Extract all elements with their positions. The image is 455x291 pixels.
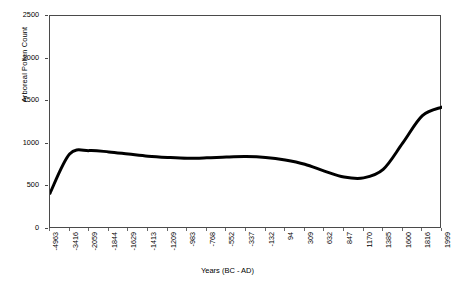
x-tick-label: -2059 xyxy=(91,232,98,291)
x-tick-label: 1816 xyxy=(424,232,431,291)
x-tick-label: -4963 xyxy=(52,232,59,291)
x-tick-label: 847 xyxy=(346,232,353,291)
x-tick-label: 1600 xyxy=(405,232,412,291)
y-tick-mark xyxy=(45,58,48,59)
x-axis-title: Years (BC - AD) xyxy=(0,266,455,275)
x-tick-label: -1844 xyxy=(111,232,118,291)
y-tick-mark xyxy=(45,185,48,186)
x-tick-mark xyxy=(225,228,226,231)
x-tick-label: 94 xyxy=(287,232,294,291)
x-tick-mark xyxy=(88,228,89,231)
x-tick-label: 1170 xyxy=(366,232,373,291)
chart-container: Arboreal Pollen Count 050010001500200025… xyxy=(0,0,455,291)
y-tick-label: 2000 xyxy=(0,54,39,61)
x-tick-mark xyxy=(343,228,344,231)
x-tick-mark xyxy=(127,228,128,231)
x-tick-mark xyxy=(284,228,285,231)
x-tick-mark xyxy=(441,228,442,231)
x-tick-mark xyxy=(304,228,305,231)
x-tick-label: 309 xyxy=(307,232,314,291)
x-tick-label: -3416 xyxy=(72,232,79,291)
x-tick-label: 1385 xyxy=(385,232,392,291)
x-tick-mark xyxy=(421,228,422,231)
y-tick-mark xyxy=(45,15,48,16)
x-tick-mark xyxy=(69,228,70,231)
x-tick-mark xyxy=(323,228,324,231)
y-axis: 05001000150020002500 xyxy=(0,0,49,245)
y-tick-label: 1000 xyxy=(0,139,39,146)
x-tick-label: 632 xyxy=(326,232,333,291)
x-tick-mark xyxy=(402,228,403,231)
x-tick-mark xyxy=(206,228,207,231)
x-tick-mark xyxy=(382,228,383,231)
x-tick-mark xyxy=(186,228,187,231)
x-tick-label: -768 xyxy=(209,232,216,291)
x-tick-label: -337 xyxy=(248,232,255,291)
x-axis: -4963-3416-2059-1844-1629-1413-1209-983-… xyxy=(0,231,455,265)
x-tick-mark xyxy=(245,228,246,231)
y-tick-label: 2500 xyxy=(0,11,39,18)
plot-area xyxy=(49,15,441,228)
x-tick-label: -132 xyxy=(268,232,275,291)
x-tick-mark xyxy=(167,228,168,231)
line-path xyxy=(50,107,442,193)
y-tick-label: 500 xyxy=(0,181,39,188)
x-tick-label: -1629 xyxy=(130,232,137,291)
x-tick-mark xyxy=(265,228,266,231)
y-tick-mark xyxy=(45,228,48,229)
x-tick-mark xyxy=(108,228,109,231)
x-tick-mark xyxy=(147,228,148,231)
x-tick-label: -552 xyxy=(228,232,235,291)
x-tick-label: -1209 xyxy=(170,232,177,291)
x-tick-mark xyxy=(363,228,364,231)
y-tick-label: 1500 xyxy=(0,96,39,103)
y-tick-mark xyxy=(45,143,48,144)
series-line-arboreal-pollen-count xyxy=(50,16,442,229)
x-tick-label: -983 xyxy=(189,232,196,291)
x-tick-mark xyxy=(49,228,50,231)
y-tick-mark xyxy=(45,100,48,101)
x-tick-label: -1413 xyxy=(150,232,157,291)
x-tick-label: 1999 xyxy=(444,232,451,291)
